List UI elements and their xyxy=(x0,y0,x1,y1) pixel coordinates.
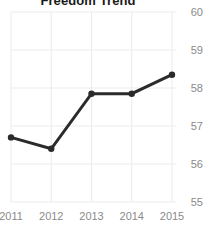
x-axis-tick-label: 2014 xyxy=(120,210,144,222)
y-axis-tick-label: 57 xyxy=(191,120,203,132)
y-axis-tick-label: 56 xyxy=(191,158,203,170)
y-axis-tick-label: 58 xyxy=(191,82,203,94)
data-point-marker xyxy=(169,72,175,78)
vertical-gridlines xyxy=(11,12,172,202)
y-axis-tick-label: 60 xyxy=(191,6,203,18)
x-axis-tick-label: 2011 xyxy=(0,210,23,222)
y-axis-tick-label: 59 xyxy=(191,44,203,56)
horizontal-gridlines xyxy=(11,12,176,202)
x-axis-tick-label: 2015 xyxy=(160,210,184,222)
data-point-marker xyxy=(129,91,135,97)
chart-container: Freedom Trend 605958575655 2011201220132… xyxy=(0,0,205,230)
x-axis-tick-label: 2013 xyxy=(79,210,103,222)
data-point-marker xyxy=(8,134,14,140)
x-axis-tick-label: 2012 xyxy=(39,210,63,222)
y-axis-tick-label: 55 xyxy=(191,196,203,208)
data-point-marker xyxy=(48,146,54,152)
line-chart-plot xyxy=(0,0,205,230)
data-point-marker xyxy=(88,91,94,97)
